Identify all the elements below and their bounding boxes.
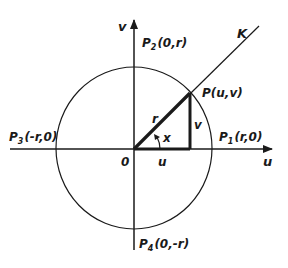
point-p3-label: P3(-r,0) xyxy=(9,130,57,146)
angle-arc xyxy=(157,137,160,149)
point-p2-label: P2(0,r) xyxy=(142,36,187,52)
horizontal-leg-label: u xyxy=(158,155,167,169)
ray-k-label: K xyxy=(237,26,248,41)
angle-arrow-icon xyxy=(154,134,160,140)
radius-segment xyxy=(134,93,190,149)
angle-label: x xyxy=(162,131,172,145)
svg-text:P1(r,0): P1(r,0) xyxy=(219,130,262,146)
u-axis-label: u xyxy=(263,154,272,169)
svg-text:P4(0,-r): P4(0,-r) xyxy=(139,237,189,253)
point-p1-label: P1(r,0) xyxy=(219,130,262,146)
origin-label: 0 xyxy=(121,155,129,169)
svg-text:P2(0,r): P2(0,r) xyxy=(142,36,187,52)
svg-text:P(u,v): P(u,v) xyxy=(202,86,243,100)
svg-text:P3(-r,0): P3(-r,0) xyxy=(9,130,57,146)
v-axis-label: v xyxy=(118,19,127,34)
unit-circle-diagram: v u 0 K r x u v P(u,v) P1(r,0) P2(0,r) P… xyxy=(0,0,288,268)
point-p4-label: P4(0,-r) xyxy=(139,237,189,253)
point-p-label: P(u,v) xyxy=(202,86,243,100)
vertical-leg-label: v xyxy=(194,118,203,132)
